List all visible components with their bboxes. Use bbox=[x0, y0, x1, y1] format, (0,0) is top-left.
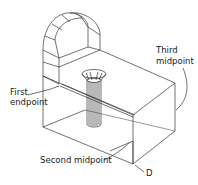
label-point-d: D bbox=[146, 168, 153, 178]
arch-wall bbox=[43, 13, 100, 84]
label-first-endpoint-1: First bbox=[10, 87, 28, 97]
leader-first-endpoint bbox=[28, 86, 59, 95]
leader-d bbox=[135, 165, 144, 172]
label-third-midpoint-1: Third bbox=[156, 45, 178, 55]
diagram-canvas: First endpoint Third midpoint Second mid… bbox=[0, 0, 198, 185]
label-first-endpoint-2: endpoint bbox=[10, 97, 48, 107]
label-third-midpoint-2: midpoint bbox=[156, 56, 194, 66]
block-body bbox=[43, 50, 175, 164]
label-second-midpoint: Second midpoint bbox=[40, 155, 112, 165]
leader-third-midpoint bbox=[176, 68, 187, 110]
